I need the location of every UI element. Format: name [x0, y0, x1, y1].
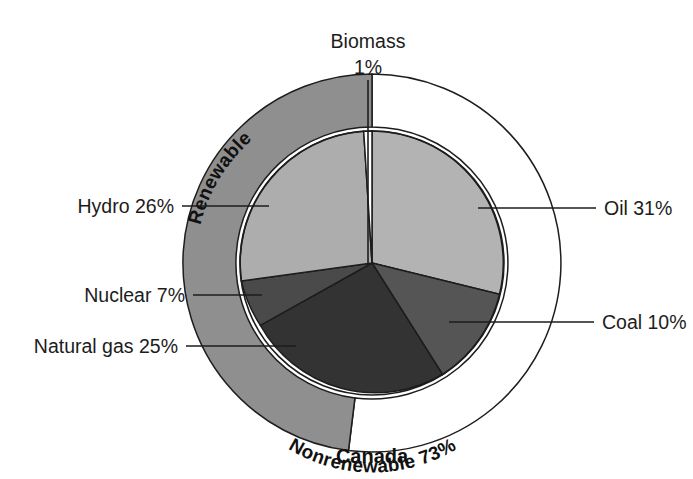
callout-hydro: Hydro 26%: [78, 195, 174, 217]
chart-title: Canada: [336, 445, 409, 467]
pie-slices-group: [240, 131, 504, 395]
callout-biomass-percent: 1%: [354, 56, 382, 78]
callout-oil: Oil 31%: [604, 197, 672, 219]
callout-natural-gas: Natural gas 25%: [34, 335, 178, 357]
callout-nuclear: Nuclear 7%: [84, 284, 185, 306]
callout-coal: Coal 10%: [602, 311, 687, 333]
canada-energy-pie-chart: Renewable Nonrenewable 73%: [0, 0, 693, 479]
pie-chart-figure: Renewable Nonrenewable 73%: [0, 0, 693, 479]
callout-biomass: Biomass: [331, 30, 406, 52]
